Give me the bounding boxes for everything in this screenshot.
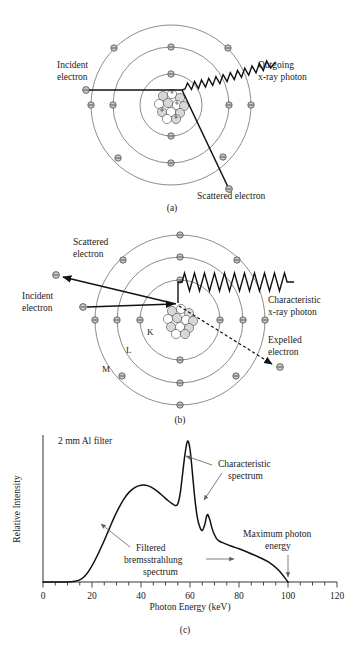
panel-c-label: (c) [180,625,191,636]
characteristic-photon-label-line1: Characteristic [268,295,321,305]
xray-production-figure: Incident electron Outgoing x-ray photon … [0,0,358,661]
chart-tick-labels: 020406080100120 [41,591,345,601]
bremsstrahlung-label-line2: bremsstrahlung [124,555,183,565]
characteristic-spectrum-label-line2: spectrum [228,471,263,481]
scattered-electron-label-line2: electron [73,249,104,259]
panel-a-svg: Incident electron Outgoing x-ray photon … [0,0,358,215]
spectrum-chart-svg: 020406080100120 Photon Energy (keV) Rela… [0,427,358,661]
bremsstrahlung-label-line3: spectrum [143,567,178,577]
chart-axes [43,435,337,588]
max-photon-energy-label-line2: energy [265,541,291,551]
x-tick-label: 40 [136,591,146,601]
outgoing-photon-label-line1: Outgoing [258,60,294,70]
x-axis-ticks [43,582,337,588]
x-tick-label: 60 [185,591,195,601]
incident-electron-label-b-line1: Incident [22,291,53,301]
characteristic-arrow-2 [204,473,222,500]
incident-electron-path-b [80,304,174,311]
characteristic-spectrum-label-line1: Characteristic [218,459,271,469]
shell-label-l: L [126,345,132,355]
expelled-electron-label-line2: electron [268,347,299,357]
x-tick-label: 100 [281,591,296,601]
bremsstrahlung-label-line1: Filtered [136,543,166,553]
scattered-electron-label-line1: Scattered [73,237,109,247]
bremsstrahlung-arrow [101,524,130,547]
scattered-electron-path-b [53,272,176,304]
nucleus-b [163,303,198,339]
expelled-electron-label-line1: Expelled [268,335,302,345]
shell-label-k: K [147,327,154,337]
x-tick-label: 80 [234,591,244,601]
x-axis-title: Photon Energy (keV) [149,602,230,613]
panel-b-svg: Scattered electron Incident electron Cha… [0,215,358,427]
x-tick-label: 120 [330,591,345,601]
x-tick-label: 20 [87,591,97,601]
y-axis-title: Relative Intensity [12,475,22,543]
scattered-electron-label-a: Scattered electron [197,191,266,201]
outgoing-photon-label-line2: x-ray photon [258,72,307,82]
panel-b-characteristic: Scattered electron Incident electron Cha… [0,215,358,427]
shell-label-m: M [102,364,110,374]
max-photon-energy-label-line1: Maximum photon [243,529,312,539]
scattered-electron-path-a [182,90,232,192]
panel-a-bremsstrahlung: Incident electron Outgoing x-ray photon … [0,0,358,215]
panel-a-labels: Incident electron Outgoing x-ray photon … [57,60,307,214]
incident-electron-label-b-line2: electron [22,303,53,313]
incident-electron-label-line2: electron [57,72,88,82]
characteristic-arrow-1 [186,456,212,465]
panel-b-label: (b) [174,415,185,426]
x-tick-label: 0 [41,591,46,601]
panel-c-spectrum-chart: 020406080100120 Photon Energy (keV) Rela… [0,427,358,661]
characteristic-photon-label-line2: x-ray photon [268,307,317,317]
filter-note-label: 2 mm Al filter [58,436,113,446]
panel-a-label: (a) [167,203,178,214]
incident-electron-label-line1: Incident [57,60,88,70]
